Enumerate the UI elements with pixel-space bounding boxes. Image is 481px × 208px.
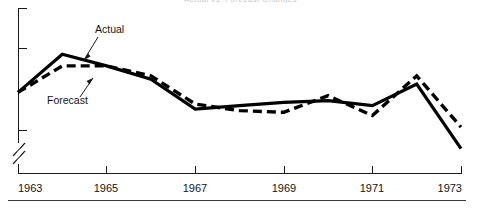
- x-tick-label-1965: 1965: [94, 182, 118, 194]
- x-tick-label-1973: 1973: [438, 182, 462, 194]
- annotation-forecast-label: Forecast: [47, 94, 88, 106]
- annotation-actual: Actual: [84, 23, 124, 60]
- line-chart: 1963 1965 1967 1969 1971 1973 Actual For…: [0, 0, 481, 208]
- annotation-actual-label: Actual: [95, 23, 124, 35]
- annotation-forecast: Forecast: [47, 78, 93, 106]
- x-tick-label-1971: 1971: [360, 182, 384, 194]
- x-tick-label-1967: 1967: [183, 182, 207, 194]
- chart-figure: Actual vs. Forecast Changes 1963: [0, 0, 481, 208]
- x-axis-ticks: [19, 166, 462, 174]
- x-tick-label-1969: 1969: [272, 182, 296, 194]
- x-tick-label-1963: 1963: [18, 182, 42, 194]
- y-axis-break-icon: [13, 143, 25, 164]
